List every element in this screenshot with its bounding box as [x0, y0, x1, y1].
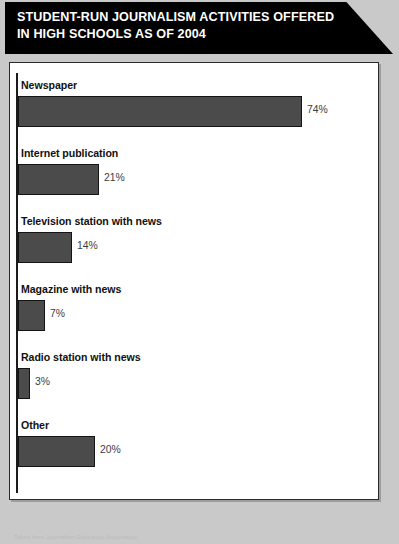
bar-row: 14%	[18, 232, 370, 263]
bar-row: 20%	[18, 436, 370, 467]
bar-value-label: 21%	[104, 172, 125, 183]
bar-row: 3%	[18, 368, 370, 399]
bar-rect[interactable]	[18, 436, 95, 467]
bar-value-label: 3%	[35, 376, 50, 387]
bar-label: Internet publication	[21, 147, 118, 159]
bar-rect[interactable]	[18, 232, 72, 263]
bar-group-magazine-with-news: Magazine with news 7%	[18, 279, 370, 347]
bar-group-radio-station-with-news: Radio station with news 3%	[18, 347, 370, 415]
bar-rect[interactable]	[18, 96, 302, 127]
bar-value-label: 7%	[50, 308, 65, 319]
bar-label: Other	[21, 419, 49, 431]
bar-value-label: 74%	[307, 104, 328, 115]
source-note: Taken from Journalism Education Associat…	[14, 533, 384, 541]
bar-row: 21%	[18, 164, 370, 195]
poster-root: STUDENT-RUN JOURNALISM ACTIVITIES OFFERE…	[0, 0, 399, 544]
bar-value-label: 20%	[100, 444, 121, 455]
bar-group-internet-publication: Internet publication 21%	[18, 143, 370, 211]
bar-row: 7%	[18, 300, 370, 331]
bar-group-television-station-with-news: Television station with news 14%	[18, 211, 370, 279]
bar-group-newspaper: Newspaper 74%	[18, 75, 370, 143]
bar-group-other: Other 20%	[18, 415, 370, 481]
bar-rect[interactable]	[18, 300, 45, 331]
bar-value-label: 14%	[77, 240, 98, 251]
title-banner: STUDENT-RUN JOURNALISM ACTIVITIES OFFERE…	[5, 2, 393, 54]
page-title: STUDENT-RUN JOURNALISM ACTIVITIES OFFERE…	[17, 9, 347, 43]
chart-panel: Newspaper 74% Internet publication 21% T…	[9, 62, 379, 500]
bar-label: Radio station with news	[21, 351, 141, 363]
bar-label: Television station with news	[21, 215, 162, 227]
bar-rect[interactable]	[18, 368, 30, 399]
bar-label: Newspaper	[21, 79, 77, 91]
bars-area: Newspaper 74% Internet publication 21% T…	[18, 75, 370, 495]
bar-row: 74%	[18, 96, 370, 127]
bar-rect[interactable]	[18, 164, 99, 195]
bar-label: Magazine with news	[21, 283, 121, 295]
